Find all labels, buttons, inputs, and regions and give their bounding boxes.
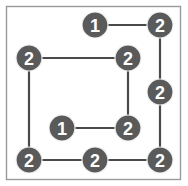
node-circle — [115, 115, 141, 141]
graph-node[interactable]: 2 — [115, 115, 141, 141]
graph-node[interactable]: 2 — [147, 79, 173, 105]
graph-node[interactable]: 2 — [147, 147, 173, 173]
node-circle — [147, 147, 173, 173]
graph-node[interactable]: 1 — [49, 115, 75, 141]
graph-node[interactable]: 2 — [147, 12, 173, 38]
node-circle — [16, 45, 42, 71]
graph-node[interactable]: 2 — [115, 45, 141, 71]
edge-layer — [29, 25, 160, 160]
graph-node[interactable]: 2 — [16, 147, 42, 173]
graph-canvas: 1222212222 — [0, 0, 188, 186]
node-circle — [49, 115, 75, 141]
node-circle — [16, 147, 42, 173]
node-circle — [147, 79, 173, 105]
graph-node[interactable]: 1 — [82, 12, 108, 38]
node-circle — [147, 12, 173, 38]
graph-node[interactable]: 2 — [82, 147, 108, 173]
node-circle — [82, 147, 108, 173]
graph-figure: 1222212222 — [0, 0, 188, 186]
node-layer: 1222212222 — [16, 12, 173, 173]
node-circle — [115, 45, 141, 71]
graph-node[interactable]: 2 — [16, 45, 42, 71]
node-circle — [82, 12, 108, 38]
